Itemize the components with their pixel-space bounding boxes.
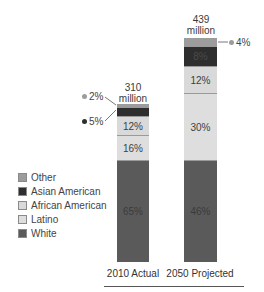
- dot-other-icon: [229, 40, 234, 45]
- x-label-2010: 2010 Actual: [98, 268, 168, 279]
- swatch-other-icon: [18, 173, 27, 182]
- x-label-2050: 2050 Projected: [165, 268, 235, 279]
- legend-item-other: Other: [18, 170, 107, 184]
- legend-label-other: Other: [31, 172, 56, 183]
- legend-label-african: African American: [31, 200, 107, 211]
- total-2050-value: 439: [181, 14, 221, 25]
- swatch-white-icon: [18, 229, 27, 238]
- bar-2050: 8% 12% 30% 46%: [184, 38, 217, 262]
- dot-asian-icon: [82, 119, 87, 124]
- callout-leader-line-2050: [217, 38, 229, 46]
- segment-latino-2010: 16%: [117, 135, 149, 160]
- bar-2010: 12% 16% 65%: [117, 104, 149, 262]
- callout-other-2050-text: 4%: [236, 37, 250, 48]
- legend: Other Asian American African American La…: [18, 170, 107, 240]
- legend-item-latino: Latino: [18, 212, 107, 226]
- bottom-rule: [104, 286, 244, 287]
- segment-latino-2050: 30%: [184, 93, 217, 160]
- swatch-latino-icon: [18, 215, 27, 224]
- swatch-african-icon: [18, 201, 27, 210]
- legend-label-latino: Latino: [31, 214, 58, 225]
- swatch-asian-icon: [18, 187, 27, 196]
- legend-item-white: White: [18, 226, 107, 240]
- dot-other-icon: [82, 94, 87, 99]
- segment-asian-2050: 8%: [184, 46, 217, 66]
- legend-label-white: White: [31, 228, 57, 239]
- legend-label-asian: Asian American: [31, 186, 100, 197]
- segment-other-2050: [184, 38, 217, 46]
- total-2010-value: 310: [113, 82, 153, 93]
- segment-african-2050: 12%: [184, 66, 217, 93]
- legend-item-african: African American: [18, 198, 107, 212]
- legend-item-asian: Asian American: [18, 184, 107, 198]
- total-2050: 439 million: [181, 14, 221, 36]
- segment-african-2010: 12%: [117, 116, 149, 135]
- segment-asian-2010: [117, 107, 149, 116]
- total-2050-unit: million: [181, 25, 221, 36]
- callout-leader-lines-2010: [100, 94, 120, 124]
- segment-white-2050: 46%: [184, 160, 217, 262]
- callout-other-2050: 4%: [229, 37, 250, 48]
- segment-white-2010: 65%: [117, 160, 149, 262]
